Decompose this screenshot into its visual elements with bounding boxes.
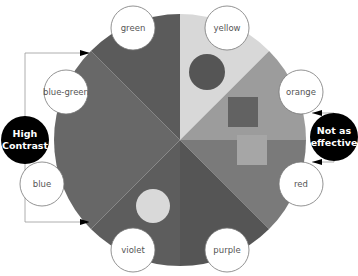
- arrow-head-bottom-right: [312, 159, 322, 165]
- yellow-dark-circle: [189, 54, 225, 90]
- label-text-orange: orange: [286, 87, 316, 97]
- wheel: [54, 14, 306, 266]
- label-text-blue-green: blue-green: [43, 87, 89, 97]
- label-green: green: [111, 6, 155, 50]
- contrast-wheel-diagram: yelloworangeredpurplevioletblueblue-gree…: [0, 0, 358, 276]
- label-blue-green: blue-green: [43, 70, 89, 114]
- label-yellow: yellow: [205, 6, 249, 50]
- label-text-yellow: yellow: [213, 23, 240, 33]
- label-red: red: [279, 162, 323, 206]
- label-text-green: green: [121, 23, 146, 33]
- not-effective-line2: effective: [311, 137, 358, 148]
- violet-light-circle: [136, 189, 170, 223]
- red-light-square: [237, 135, 267, 165]
- not-effective-callout: Not as effective: [310, 113, 358, 161]
- label-orange: orange: [279, 70, 323, 114]
- label-text-violet: violet: [121, 245, 145, 255]
- label-blue: blue: [20, 162, 64, 206]
- high-contrast-line1: High: [13, 128, 38, 139]
- label-text-blue: blue: [33, 179, 51, 189]
- high-contrast-callout: High Contrast: [1, 116, 49, 164]
- label-violet: violet: [111, 228, 155, 272]
- high-contrast-line2: Contrast: [2, 140, 49, 151]
- arrow-head-top-right: [312, 110, 322, 116]
- orange-dark-square: [228, 97, 258, 127]
- label-text-purple: purple: [213, 245, 240, 255]
- label-purple: purple: [205, 228, 249, 272]
- not-effective-line1: Not as: [317, 125, 352, 136]
- label-text-red: red: [294, 179, 308, 189]
